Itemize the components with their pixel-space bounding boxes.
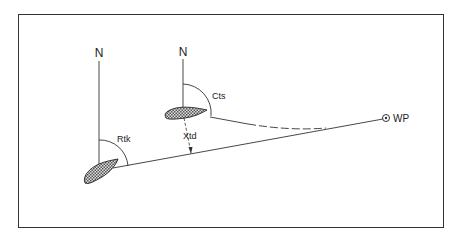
route-line [113, 119, 383, 168]
cts-label: Cts [212, 91, 226, 101]
boat-shape-original [84, 159, 118, 184]
course-to-steer-dashed [248, 124, 326, 129]
navigation-diagram: N N Rtk Cts Xtd WP [0, 0, 463, 239]
boat-shape-current [165, 107, 207, 119]
north-label-right: N [179, 45, 188, 59]
waypoint-label: WP [393, 113, 409, 124]
course-to-steer-path [210, 117, 248, 124]
rtk-label: Rtk [117, 134, 131, 144]
xtd-label: Xtd [183, 131, 197, 141]
north-label-left: N [95, 46, 104, 60]
xtd-arrowhead [189, 147, 193, 154]
